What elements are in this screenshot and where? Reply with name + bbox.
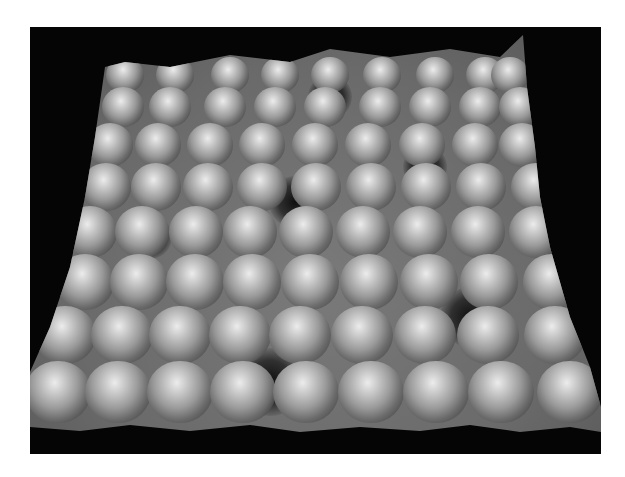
atom-bump (110, 254, 168, 309)
stm-image-frame (30, 27, 601, 454)
atom-bump (394, 306, 456, 365)
atom-bump (345, 123, 391, 167)
atom-bump (499, 123, 545, 167)
atom-bump (131, 163, 181, 211)
atom-bump (261, 57, 299, 93)
atom-bump (336, 206, 390, 257)
atom-bump (106, 57, 144, 93)
lattice-vacancy (440, 287, 500, 347)
atom-bump (340, 254, 398, 309)
atom-bump (338, 361, 404, 424)
atom-bump (456, 163, 506, 211)
atom-bump (279, 206, 333, 257)
atom-bump (204, 87, 246, 127)
atom-bump (63, 206, 117, 257)
atom-bump (304, 87, 346, 127)
atom-bump (400, 254, 458, 309)
atom-bump (537, 361, 601, 424)
atom-bump (401, 163, 451, 211)
atom-bump (499, 87, 541, 127)
atom-bump (87, 123, 133, 167)
atom-bump (209, 306, 271, 365)
atom-bump (491, 57, 529, 93)
lattice-vacancy (269, 176, 321, 228)
atom-bump (459, 87, 501, 127)
atom-bump (393, 206, 447, 257)
atom-bump (156, 57, 194, 93)
atom-bump (460, 254, 518, 309)
atom-bump (363, 57, 401, 93)
atom-bump (85, 361, 151, 424)
atom-bump (451, 206, 505, 257)
atom-bump (102, 87, 144, 127)
atom-bump (523, 254, 581, 309)
lattice-vacancy (308, 75, 352, 119)
atom-bump (149, 306, 211, 365)
atom-bump (292, 123, 338, 167)
atom-bump (466, 57, 504, 93)
atom-bump (147, 361, 213, 424)
atom-bump (281, 254, 339, 309)
atom-bump (30, 361, 91, 424)
atom-bump (166, 254, 224, 309)
atom-bump (210, 361, 276, 424)
atom-bump (331, 306, 393, 365)
atom-bump (452, 123, 498, 167)
atom-bump (91, 306, 153, 365)
atom-bump (223, 254, 281, 309)
lattice-vacancy (128, 215, 172, 259)
atom-bump (468, 361, 534, 424)
atom-bump (223, 206, 277, 257)
lattice-vacancy (236, 348, 304, 416)
atom-bump (187, 123, 233, 167)
atom-bump (149, 87, 191, 127)
atom-bump (237, 163, 287, 211)
atom-bump (273, 361, 339, 424)
lattice-vacancy (403, 145, 447, 189)
atom-bump (511, 163, 561, 211)
atom-bump (524, 306, 586, 365)
atom-bump (81, 163, 131, 211)
atom-bump (311, 57, 349, 93)
atom-bump (403, 361, 469, 424)
atom-bump (409, 87, 451, 127)
atom-bump (399, 123, 445, 167)
atom-bump (183, 163, 233, 211)
atom-bump (269, 306, 331, 365)
atom-bump (457, 306, 519, 365)
atom-bump (115, 206, 169, 257)
atom-bump (346, 163, 396, 211)
atom-bump (509, 206, 563, 257)
atom-bump (359, 87, 401, 127)
atom-bump (211, 57, 249, 93)
atomic-lattice-surface (30, 27, 601, 454)
atom-bump (291, 163, 341, 211)
atom-bump (169, 206, 223, 257)
atom-bump (239, 123, 285, 167)
atom-bump (34, 306, 96, 365)
atom-bump (135, 123, 181, 167)
atom-bump (416, 57, 454, 93)
atom-bump (56, 254, 114, 309)
atom-bump (254, 87, 296, 127)
